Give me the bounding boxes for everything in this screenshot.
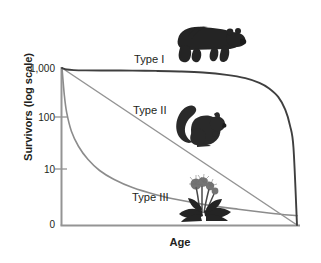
series-label-type-2: Type II: [133, 104, 167, 116]
y-tick-label-1000: 1,000: [14, 64, 55, 74]
bear-icon: [168, 17, 248, 67]
x-axis-title: Age: [62, 236, 298, 248]
series-label-type-1: Type I: [134, 53, 164, 65]
survivorship-curve-figure: 1,000 100 10 0 Survivors (log scale) Age…: [0, 0, 321, 263]
series-label-type-3: Type III: [132, 191, 169, 203]
y-tick-label-0: 0: [14, 220, 55, 230]
y-axis-title: Survivors (log scale): [22, 27, 34, 187]
dandelion-plant-icon: [176, 173, 236, 223]
y-tick-label-10: 10: [14, 165, 55, 175]
squirrel-icon: [173, 101, 227, 151]
y-tick-label-100: 100: [14, 113, 55, 123]
